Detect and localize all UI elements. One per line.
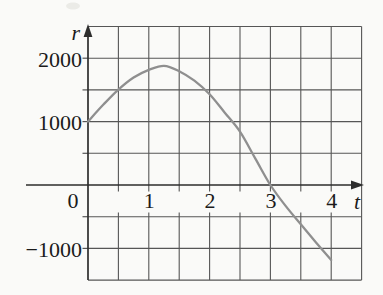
plot-svg: 20001000−100001234rt [0, 0, 383, 295]
y-axis-label: r [71, 20, 80, 45]
y-tick-label-1000: 1000 [38, 110, 82, 135]
x-tick-label-2: 2 [205, 188, 216, 213]
x-tick-label-3: 3 [265, 188, 276, 213]
rate-graph-figure: 20001000−100001234rt [0, 0, 383, 295]
y-tick-label--1000: −1000 [26, 237, 82, 262]
x-axis-label: t [354, 189, 361, 214]
scan-smudge [66, 3, 80, 10]
y-tick-label-2000: 2000 [38, 47, 82, 72]
x-tick-label-4: 4 [326, 188, 337, 213]
origin-label: 0 [68, 188, 79, 213]
x-tick-label-1: 1 [144, 188, 155, 213]
